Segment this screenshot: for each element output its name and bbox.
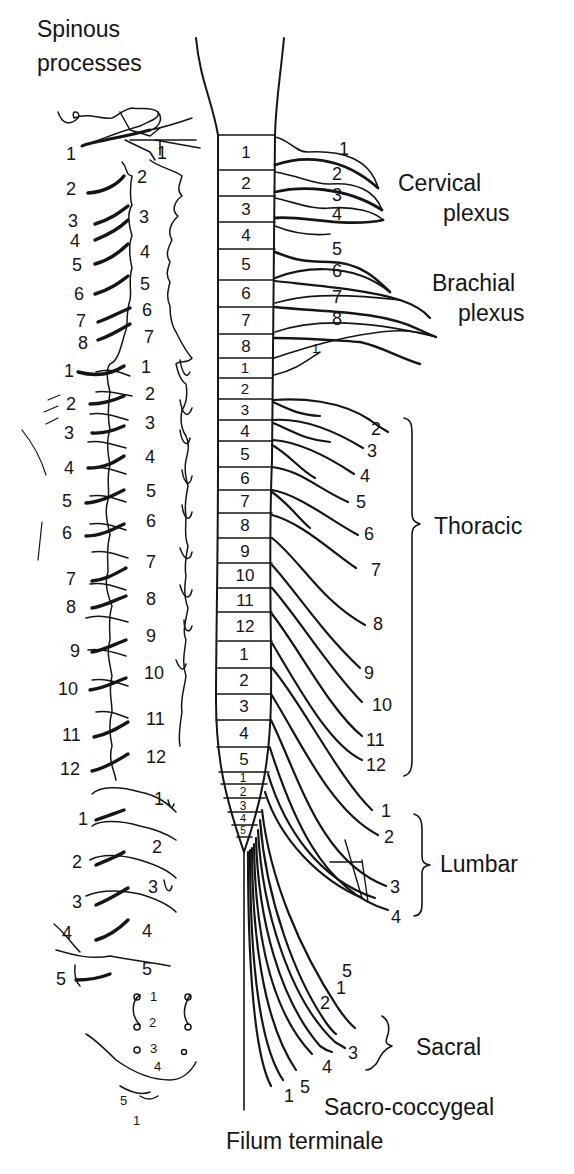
cord-segment-c6: 6 <box>228 285 264 302</box>
cord-segment-c2: 2 <box>228 175 264 192</box>
cord-segment-t11: 11 <box>227 592 263 609</box>
brachial-plexus-label-line1: Brachial <box>432 272 515 295</box>
vert-root-l1: 1 <box>78 810 88 828</box>
sacral-bracket <box>366 1016 392 1070</box>
vertebra-t4: 4 <box>145 448 155 466</box>
nerve-label-t3: 3 <box>367 442 377 460</box>
nerve-label-t10: 10 <box>372 696 392 714</box>
cord-segment-t7: 7 <box>227 493 263 510</box>
nerve-label-t6: 6 <box>364 525 374 543</box>
vertebra-l5: 5 <box>142 960 152 978</box>
sacral-vertebra-5: 5 <box>120 1094 127 1107</box>
diagram-lines <box>0 0 574 1174</box>
nerve-label-l3: 3 <box>390 878 400 896</box>
rib-stub-marks <box>22 395 60 560</box>
vert-root-t8: 8 <box>66 598 76 616</box>
vertebra-l4: 4 <box>142 922 152 940</box>
vert-root-c5: 5 <box>72 256 82 274</box>
nerve-label-t1: 1 <box>312 342 319 355</box>
cord-segment-t2: 2 <box>227 381 263 396</box>
vertebra-t3: 3 <box>145 414 155 432</box>
vert-root-l4: 4 <box>62 924 72 942</box>
vert-root-c6: 6 <box>74 285 84 303</box>
nerve-label-c2: 2 <box>332 165 342 183</box>
cord-segment-t8: 8 <box>227 517 263 534</box>
cord-segment-t9: 9 <box>227 543 263 560</box>
vertebra-t5: 5 <box>146 482 156 500</box>
nerve-label-t12: 12 <box>366 756 386 774</box>
cervical-plexus-label-line1: Cervical <box>398 172 481 195</box>
vertebra-l2: 2 <box>152 838 162 856</box>
nerve-label-t2: 2 <box>371 420 381 438</box>
nerve-label-t9: 9 <box>364 664 374 682</box>
vertebra-l1: 1 <box>154 790 164 808</box>
nerve-label-t8: 8 <box>373 615 383 633</box>
vert-root-t1: 1 <box>64 362 74 380</box>
vertebra-c5: 5 <box>140 275 150 293</box>
lumbar-nerves <box>265 668 388 910</box>
nerve-label-c8: 8 <box>332 310 342 328</box>
nerve-label-t4: 4 <box>360 467 370 485</box>
nerve-label-c1: 1 <box>339 140 349 158</box>
cord-segment-t6: 6 <box>227 470 263 487</box>
cord-segment-s5: 5 <box>225 826 261 836</box>
spinal-nerves-diagram: Spinous processes Filum terminale Cervic… <box>0 0 574 1174</box>
brachial-plexus-label-line2: plexus <box>458 302 524 325</box>
vertebra-c6: 6 <box>142 301 152 319</box>
spinous-processes-label-line1: Spinous <box>37 18 120 41</box>
vert-root-c1: 1 <box>66 145 76 163</box>
vert-root-c8: 8 <box>78 334 88 352</box>
nerve-label-s4: 4 <box>322 1058 332 1076</box>
cervical-plexus-label-line2: plexus <box>443 202 509 225</box>
nerve-label-l1: 1 <box>381 802 391 820</box>
nerve-label-c3: 3 <box>332 186 342 204</box>
vert-root-t12: 12 <box>60 760 80 778</box>
cord-segment-t4: 4 <box>227 423 263 440</box>
cord-segment-l4: 4 <box>226 725 262 742</box>
vertebra-t9: 9 <box>146 627 156 645</box>
vertebra-c3: 3 <box>139 208 149 226</box>
cord-segment-c1: 1 <box>228 144 264 161</box>
sacral-vertebra-4: 4 <box>154 1060 161 1073</box>
nerve-label-s2: 2 <box>320 994 330 1012</box>
sacral-label: Sacral <box>416 1036 481 1059</box>
vertebra-t2: 2 <box>145 385 155 403</box>
cord-segment-l1: 1 <box>226 646 262 663</box>
vert-root-t2: 2 <box>66 395 76 413</box>
cord-segment-s2: 2 <box>225 786 261 798</box>
vert-root-c7: 7 <box>76 312 86 330</box>
spinous-processes-label-line2: processes <box>37 52 142 75</box>
cord-segment-t12: 12 <box>227 618 263 635</box>
vertebra-c7: 7 <box>144 328 154 346</box>
sacral-vertebra-1: 1 <box>150 990 157 1003</box>
vertebra-t8: 8 <box>146 590 156 608</box>
nerve-label-c4: 4 <box>332 205 342 223</box>
vertebra-t7: 7 <box>146 553 156 571</box>
vertebra-c1: 1 <box>157 144 167 162</box>
brachial-plexus-nerves <box>274 252 436 375</box>
sacro-coccygeal-label: Sacro-coccygeal <box>324 1096 494 1119</box>
vertebra-l3: 3 <box>148 878 158 896</box>
vert-root-t10: 10 <box>58 680 78 698</box>
vert-root-l2: 2 <box>72 853 82 871</box>
vertebra-t10: 10 <box>144 664 164 682</box>
cord-segment-s4: 4 <box>225 813 261 824</box>
nerve-label-t11: 11 <box>366 731 385 749</box>
vert-root-t11: 11 <box>62 726 81 744</box>
vert-root-t9: 9 <box>70 642 80 660</box>
nerve-label-c7: 7 <box>332 288 342 306</box>
vertebra-t1: 1 <box>141 358 151 376</box>
cord-segment-c7: 7 <box>228 312 264 329</box>
vert-root-l3: 3 <box>72 893 82 911</box>
thoracic-bracket <box>404 418 420 776</box>
cord-segment-l3: 3 <box>226 698 262 715</box>
vert-root-l5: 5 <box>56 970 66 988</box>
vert-root-t6: 6 <box>62 524 72 542</box>
vert-root-c2: 2 <box>66 180 76 198</box>
cervical-plexus-nerves <box>275 137 383 235</box>
cord-segment-s3: 3 <box>225 800 261 812</box>
lumbar-label: Lumbar <box>440 853 518 876</box>
vertebra-c4: 4 <box>140 243 150 261</box>
cord-segment-c8: 8 <box>228 338 264 355</box>
vert-root-t5: 5 <box>62 492 72 510</box>
